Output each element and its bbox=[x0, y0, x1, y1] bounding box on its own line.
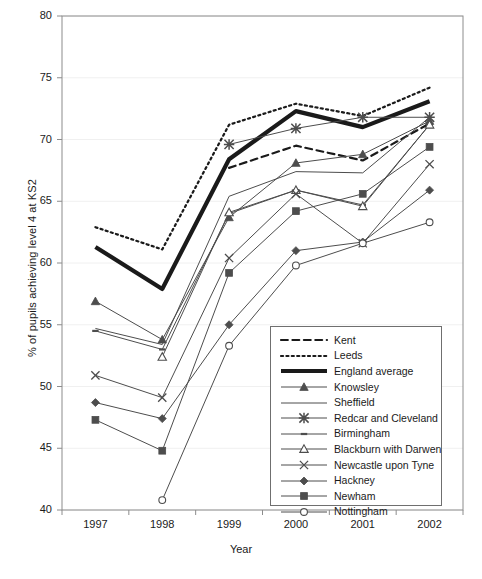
legend-swatch-asterisk bbox=[275, 410, 333, 425]
legend-label: Kent bbox=[333, 334, 356, 346]
legend-label: Leeds bbox=[333, 349, 363, 361]
x-tick-2001: 2001 bbox=[333, 518, 393, 530]
y-tick-65: 65 bbox=[18, 194, 52, 206]
legend-label: Redcar and Cleveland bbox=[333, 412, 438, 424]
legend-swatch-circle-open bbox=[275, 504, 333, 519]
y-tick-55: 55 bbox=[18, 318, 52, 330]
legend-swatch-diamond bbox=[275, 473, 333, 488]
legend-swatch-triangle-open bbox=[275, 441, 333, 456]
legend-label: Birmingham bbox=[333, 427, 390, 439]
legend-label: Blackburn with Darwen bbox=[333, 443, 441, 455]
legend: KentLeedsEngland averageKnowsleySheffiel… bbox=[270, 326, 442, 506]
legend-item-birmingham[interactable]: Birmingham bbox=[275, 426, 441, 442]
legend-item-hackney[interactable]: Hackney bbox=[275, 472, 441, 488]
legend-label: Knowsley bbox=[333, 381, 379, 393]
legend-label: Nottingham bbox=[333, 505, 388, 517]
legend-swatch-none bbox=[275, 332, 333, 347]
y-axis-label: % of pupils achieving level 4 at KS2 bbox=[26, 158, 38, 378]
y-tick-80: 80 bbox=[18, 9, 52, 21]
y-tick-70: 70 bbox=[18, 133, 52, 145]
legend-swatch-square bbox=[275, 488, 333, 503]
x-axis-label: Year bbox=[0, 543, 482, 555]
legend-item-knowsley[interactable]: Knowsley bbox=[275, 379, 441, 395]
legend-item-blackburn-with-darwen[interactable]: Blackburn with Darwen bbox=[275, 441, 441, 457]
legend-label: Hackney bbox=[333, 474, 375, 486]
legend-label: Sheffield bbox=[333, 396, 375, 408]
x-tick-2000: 2000 bbox=[266, 518, 326, 530]
y-tick-40: 40 bbox=[18, 503, 52, 515]
legend-item-newcastle-upon-tyne[interactable]: Newcastle upon Tyne bbox=[275, 457, 441, 473]
y-tick-50: 50 bbox=[18, 380, 52, 392]
legend-entries: KentLeedsEngland averageKnowsleySheffiel… bbox=[275, 332, 441, 519]
legend-swatch-none bbox=[275, 395, 333, 410]
x-tick-1998: 1998 bbox=[132, 518, 192, 530]
line-chart: % of pupils achieving level 4 at KS2 Yea… bbox=[0, 0, 482, 579]
legend-item-england-average[interactable]: England average bbox=[275, 363, 441, 379]
series-england-average bbox=[95, 101, 429, 289]
x-tick-2002: 2002 bbox=[400, 518, 460, 530]
legend-item-kent[interactable]: Kent bbox=[275, 332, 441, 348]
legend-swatch-cross-x bbox=[275, 457, 333, 472]
legend-item-leeds[interactable]: Leeds bbox=[275, 348, 441, 364]
legend-swatch-none bbox=[275, 348, 333, 363]
x-tick-1997: 1997 bbox=[65, 518, 125, 530]
legend-label: England average bbox=[333, 365, 413, 377]
legend-item-sheffield[interactable]: Sheffield bbox=[275, 394, 441, 410]
y-tick-75: 75 bbox=[18, 71, 52, 83]
x-tick-1999: 1999 bbox=[199, 518, 259, 530]
legend-label: Newham bbox=[333, 490, 375, 502]
legend-item-newham[interactable]: Newham bbox=[275, 488, 441, 504]
series-leeds bbox=[95, 88, 429, 250]
legend-item-redcar-and-cleveland[interactable]: Redcar and Cleveland bbox=[275, 410, 441, 426]
legend-swatch-dash bbox=[275, 426, 333, 441]
legend-label: Newcastle upon Tyne bbox=[333, 459, 434, 471]
legend-swatch-triangle-up bbox=[275, 379, 333, 394]
y-tick-60: 60 bbox=[18, 256, 52, 268]
y-tick-45: 45 bbox=[18, 441, 52, 453]
legend-swatch-none bbox=[275, 363, 333, 378]
legend-item-nottingham[interactable]: Nottingham bbox=[275, 504, 441, 520]
series-sheffield bbox=[95, 117, 429, 344]
